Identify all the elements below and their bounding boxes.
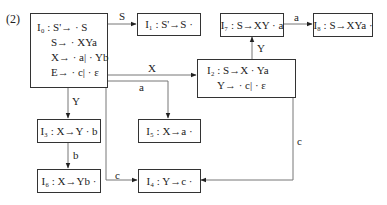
edge-label-s: S	[119, 11, 125, 22]
edge-label-c-i2: c	[297, 136, 302, 147]
edge-label-c-i4: c	[115, 170, 120, 181]
i4-item: I₄ : Y→c ·	[147, 174, 193, 189]
i3-item: I₃ : X→Y · b	[40, 124, 97, 139]
i6-item: I₆ : X→Yb ·	[42, 174, 97, 189]
i1-item: I₁ : S'→S ·	[145, 17, 193, 32]
state-i6: I₆ : X→Yb ·	[37, 169, 101, 193]
i8-item: I₈ : S→XYa ·	[313, 18, 372, 33]
i0-item-2: S→ · XYa	[37, 35, 107, 50]
state-i3: I₃ : X→Y · b	[37, 119, 101, 143]
i5-item: I₅ : X→a ·	[146, 124, 192, 139]
i0-item-4: E→ · c| · ε	[37, 65, 107, 80]
state-i7: I₇ : S→XY · a	[220, 13, 284, 37]
i0-item-3: X→ · a| · Yb	[37, 50, 107, 65]
state-i2: I₂ : S→X · Ya Y→ · c| · ε	[197, 59, 296, 98]
i2-item-2: Y→ · c| · ε	[207, 78, 295, 93]
i2-item-1: I₂ : S→X · Ya	[207, 63, 295, 78]
edge-label-a-i5: a	[139, 82, 144, 93]
edge-i0-i5	[107, 81, 168, 118]
edge-label-x: X	[148, 63, 156, 74]
edge-label-b: b	[73, 150, 79, 161]
edge-label-y-i7: Y	[257, 43, 265, 54]
state-i0: I₀ : S'→ · S S→ · XYa X→ · a| · Yb E→ · …	[30, 13, 108, 88]
state-i5: I₅ : X→a ·	[138, 119, 201, 143]
state-i8: I₈ : S→XYa ·	[313, 13, 373, 37]
state-i4: I₄ : Y→c ·	[138, 169, 201, 193]
edge-i0-i4	[106, 87, 137, 180]
state-i1: I₁ : S'→S ·	[137, 13, 201, 36]
edge-label-y-i3: Y	[72, 96, 80, 107]
i7-item: I₇ : S→XY · a	[221, 18, 284, 33]
i0-item-1: I₀ : S'→ · S	[37, 20, 107, 35]
figure-number: (2)	[6, 12, 20, 27]
edge-label-a-i8: a	[294, 12, 299, 23]
